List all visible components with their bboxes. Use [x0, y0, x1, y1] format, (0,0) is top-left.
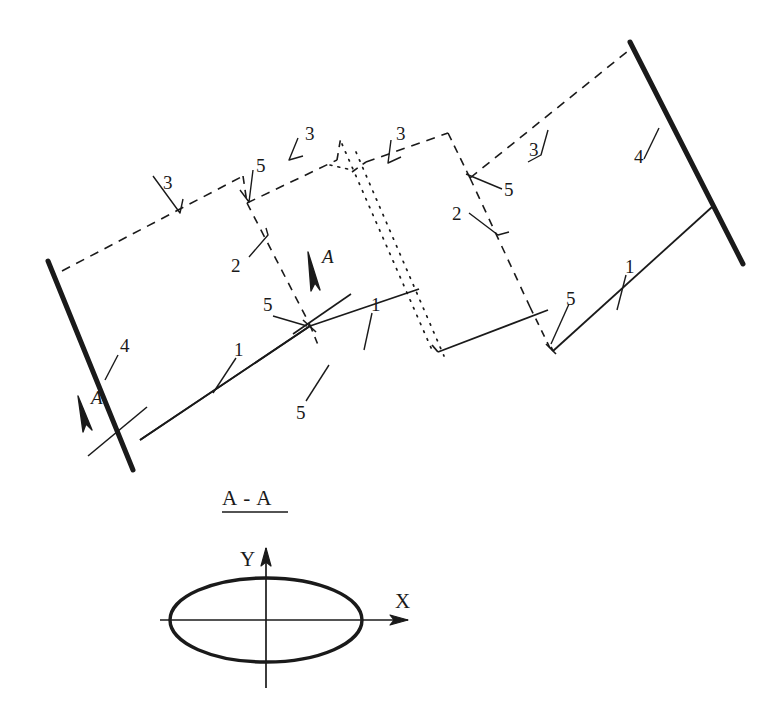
- front-edge-step-to-mid-right: [438, 310, 548, 352]
- rear-edge-panel-4: [470, 47, 633, 178]
- dotted-interior-edge-c: [330, 165, 352, 170]
- rear-jog-panel-2: [352, 162, 366, 172]
- leader-callout-1-left-bottom: [213, 358, 236, 393]
- section-cut-line-left: [88, 407, 147, 456]
- leader-callout-4-right-post: [644, 128, 659, 159]
- section-title: A - A: [222, 486, 273, 510]
- section-arrow-left-label: A: [89, 387, 103, 408]
- section-axis-y-label: Y: [240, 547, 255, 571]
- rear-edge-panel-1: [62, 176, 243, 271]
- front-edge-lower-left: [140, 326, 310, 440]
- leader-callout-2-right: [469, 213, 509, 235]
- callout-4-left-post: 4: [120, 335, 130, 356]
- leader-callout-4-left-post: [105, 355, 118, 380]
- figure-root: 3 5 3 3 3 5: [0, 0, 770, 716]
- callout-3-center-left: 3: [305, 123, 315, 144]
- leader-callout-3-center-left: [289, 138, 303, 160]
- rear-rib-left-vertical: [247, 203, 310, 325]
- dotted-interior-edge-a: [342, 144, 432, 350]
- front-edge-to-right-post: [553, 207, 712, 351]
- callout-3-far-left: 3: [163, 172, 173, 193]
- main-isometric-view: 3 5 3 3 3 5: [48, 42, 743, 470]
- callout-2-left: 2: [231, 255, 241, 276]
- section-a-a-view: A - A X Y: [160, 486, 410, 688]
- callout-5-low-right: 5: [566, 288, 576, 309]
- leader-callout-5-mid-left: [273, 316, 307, 326]
- callout-5-mid-left: 5: [263, 294, 273, 315]
- callout-1-right-bottom: 1: [625, 256, 635, 277]
- section-arrow-middle-label: A: [320, 246, 334, 267]
- callout-2-right: 2: [452, 203, 462, 224]
- rear-rib-panel-2: [337, 136, 341, 160]
- rear-rib-right-vertical: [470, 178, 530, 307]
- callout-5-top-right: 5: [504, 179, 514, 200]
- callout-5-top-left: 5: [256, 155, 266, 176]
- callout-3-center-right: 3: [396, 123, 406, 144]
- leader-callout-2-left: [249, 228, 268, 257]
- rear-rib-panel-3: [448, 133, 470, 178]
- section-arrowhead-left-icon: [78, 396, 92, 432]
- callout-3-far-right: 3: [529, 139, 539, 160]
- leader-callout-1-middle-bottom: [364, 313, 372, 350]
- left-end-post: [48, 261, 133, 470]
- leader-callout-5-low-left: [306, 365, 329, 401]
- callout-5-low-left: 5: [296, 402, 306, 423]
- callout-1-middle-bottom: 1: [371, 294, 381, 315]
- rear-edge-panel-3: [366, 133, 448, 162]
- section-arrowhead-middle-icon: [308, 252, 320, 291]
- callout-1-left-bottom: 1: [234, 339, 244, 360]
- assembly-drawing-canvas: 3 5 3 3 3 5: [0, 0, 770, 716]
- callout-4-right-post: 4: [634, 146, 644, 167]
- front-edge-ascend-mid: [310, 289, 419, 326]
- section-axis-x-label: X: [395, 589, 410, 613]
